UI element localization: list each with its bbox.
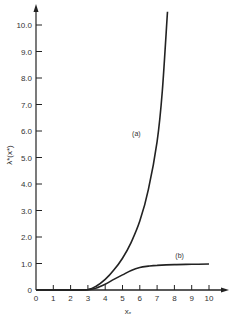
x-tick-label: 3 <box>86 294 91 303</box>
x-tick-label: 0 <box>34 294 39 303</box>
chart: 01.02.03.04.05.06.07.08.09.010.0 0123456… <box>0 0 232 322</box>
x-tick-label: 1 <box>51 294 56 303</box>
y-tick-label: 0 <box>28 286 33 295</box>
x-axis-title: x* <box>125 307 132 317</box>
y-tick-label: 7.0 <box>21 101 33 110</box>
x-tick-label: 2 <box>68 294 73 303</box>
y-tick-label: 2.0 <box>21 233 33 242</box>
y-tick-label: 3.0 <box>21 207 33 216</box>
y-tick-label: 1.0 <box>21 260 33 269</box>
x-tick-label: 9 <box>189 294 194 303</box>
curve-b-label: (b) <box>175 252 184 260</box>
x-axis-ticks: 012345678910 <box>34 285 214 303</box>
y-axis-arrow-icon <box>34 4 39 12</box>
x-tick-label: 10 <box>205 294 214 303</box>
curve-a-label: (a) <box>132 130 141 138</box>
x-tick-label: 6 <box>138 294 143 303</box>
y-axis-title: λ*(x*) <box>5 145 14 165</box>
x-tick-label: 7 <box>155 294 160 303</box>
y-tick-label: 5.0 <box>21 154 33 163</box>
y-tick-label: 6.0 <box>21 127 33 136</box>
x-tick-label: 8 <box>172 294 177 303</box>
curve-a <box>36 12 168 290</box>
x-tick-label: 4 <box>103 294 108 303</box>
x-tick-label: 5 <box>120 294 125 303</box>
y-tick-label: 8.0 <box>21 74 33 83</box>
y-axis-ticks: 01.02.03.04.05.06.07.08.09.010.0 <box>16 21 42 295</box>
y-tick-label: 10.0 <box>16 21 32 30</box>
y-tick-label: 9.0 <box>21 48 33 57</box>
x-axis-arrow-icon <box>221 288 229 293</box>
y-tick-label: 4.0 <box>21 180 33 189</box>
